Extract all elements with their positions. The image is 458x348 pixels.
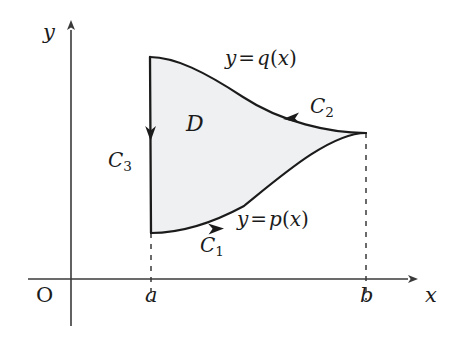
- segment-c3-left-boundary: [150, 57, 151, 233]
- function-p-close-paren: ): [301, 207, 309, 231]
- function-label-p: y=p(x): [237, 209, 309, 229]
- function-label-q: y=q(x): [225, 48, 297, 68]
- x-tick-label-a: a: [145, 285, 158, 306]
- function-p-arg: x: [290, 207, 301, 231]
- function-q-open-paren: (: [270, 46, 278, 70]
- curve-label-c1-subscript: 1: [215, 243, 224, 259]
- curve-label-c3-subscript: 3: [123, 158, 132, 174]
- function-q-close-paren: ): [289, 46, 297, 70]
- curve-label-c2-letter: C: [310, 94, 325, 118]
- region-label-d: D: [186, 113, 204, 135]
- curve-label-c3-letter: C: [108, 148, 123, 172]
- function-q-arg: x: [278, 46, 289, 70]
- y-axis-label: y: [43, 22, 55, 43]
- function-q-name: q: [257, 46, 270, 70]
- x-tick-label-b: b: [360, 285, 373, 306]
- origin-label: O: [36, 285, 53, 306]
- figure-canvas: y x O a b D C1 C2 C3 y=q(x) y=p(x): [0, 0, 458, 348]
- curve-label-c2-subscript: 2: [325, 104, 334, 120]
- function-p-equals: =: [248, 207, 269, 231]
- curve-label-c1-letter: C: [200, 233, 215, 257]
- x-axis-label: x: [425, 285, 437, 306]
- function-p-open-paren: (: [282, 207, 290, 231]
- function-q-lhs: y: [225, 46, 236, 70]
- function-q-equals: =: [236, 46, 257, 70]
- curve-label-c2: C2: [310, 96, 334, 119]
- curve-label-c3: C3: [108, 150, 132, 173]
- function-p-lhs: y: [237, 207, 248, 231]
- function-p-name: p: [269, 207, 282, 231]
- curve-label-c1: C1: [200, 235, 224, 258]
